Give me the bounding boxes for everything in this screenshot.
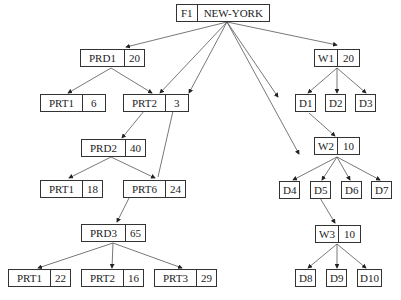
node-code: D6 [342,182,361,198]
node-code: W2 [315,138,337,154]
d9-node: D9 [326,269,347,287]
node-code: F1 [177,5,197,21]
node-code: PRD3 [82,225,125,241]
node-value: 18 [82,181,102,197]
prd3-node: PRD3 65 [81,224,146,242]
node-code: D1 [296,95,315,111]
node-code: D8 [296,270,315,286]
prd1-prt2-node: PRT2 3 [123,94,189,112]
node-value: 16 [123,270,143,286]
d1-node: D1 [295,94,316,112]
node-code: PRT1 [41,95,82,111]
node-code: PRT1 [41,181,82,197]
node-code: PRD1 [81,50,124,66]
node-code: PRT6 [124,181,165,197]
node-code: D4 [280,182,299,198]
w3-node: W3 10 [315,225,361,243]
prd2-prt1-node: PRT1 18 [40,180,103,198]
node-code: D3 [356,95,375,111]
node-value: 29 [196,270,216,286]
w1-node: W1 20 [314,49,360,67]
node-value: 10 [337,138,359,154]
node-value: 6 [82,95,105,111]
node-code: D2 [326,95,345,111]
d10-node: D10 [357,269,382,287]
node-code: D5 [311,182,330,198]
d6-node: D6 [341,181,362,199]
node-value: 20 [337,50,359,66]
node-value: 24 [165,181,185,197]
node-code: D9 [327,270,346,286]
node-code: D7 [372,182,391,198]
prd2-prt6-node: PRT6 24 [123,180,186,198]
d7-node: D7 [371,181,392,199]
prd1-node: PRD1 20 [80,49,145,67]
w2-node: W2 10 [314,137,360,155]
d2-node: D2 [325,94,346,112]
node-code: PRD2 [82,140,125,156]
node-code: W1 [315,50,337,66]
node-value: 3 [165,95,188,111]
node-code: PRT2 [124,95,165,111]
node-label: NEW-YORK [197,5,269,21]
node-code: PRT3 [155,270,196,286]
node-value: 10 [338,226,360,242]
node-code: PRT2 [82,270,123,286]
d8-node: D8 [295,269,316,287]
node-code: D10 [358,270,381,286]
node-value: 40 [125,140,145,156]
node-code: W3 [316,226,338,242]
d4-node: D4 [279,181,300,199]
prd3-prt1-node: PRT1 22 [8,269,71,287]
d3-node: D3 [355,94,376,112]
node-value: 22 [50,270,70,286]
root-node: F1 NEW-YORK [176,4,270,22]
prd3-prt2-node: PRT2 16 [81,269,144,287]
prd2-node: PRD2 40 [81,139,146,157]
prd3-prt3-node: PRT3 29 [154,269,217,287]
node-value: 20 [124,50,144,66]
d5-node: D5 [310,181,331,199]
node-code: PRT1 [9,270,50,286]
node-value: 65 [125,225,145,241]
prd1-prt1-node: PRT1 6 [40,94,106,112]
